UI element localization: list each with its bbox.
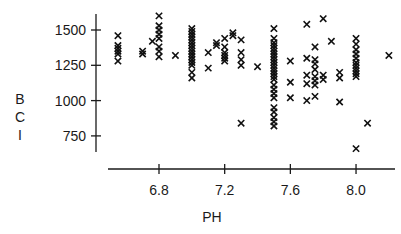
x-tick-label: 6.8: [149, 182, 169, 198]
data-point-x-marker: [115, 58, 120, 63]
y-axis-label-char: I: [18, 127, 22, 143]
data-point-x-marker: [312, 44, 317, 49]
data-point-x-marker: [312, 67, 317, 72]
data-point-x-marker: [337, 70, 342, 75]
data-point-x-marker: [189, 75, 194, 80]
data-point-x-marker: [271, 95, 276, 100]
data-point-x-marker: [156, 49, 161, 54]
data-point-x-marker: [189, 70, 194, 75]
data-point-x-marker: [271, 123, 276, 128]
data-point-x-marker: [239, 121, 244, 126]
data-point-x-marker: [304, 81, 309, 86]
data-point-x-marker: [288, 58, 293, 63]
data-point-x-marker: [222, 44, 227, 49]
data-point-x-marker: [271, 109, 276, 114]
data-point-x-marker: [271, 26, 276, 31]
y-tick-label: 1500: [55, 22, 86, 38]
data-point-x-marker: [156, 13, 161, 18]
scatter-chart: 750100012501500 6.87.27.68.0 BCI PH: [0, 0, 401, 234]
y-axis-label-char: C: [15, 109, 25, 125]
data-point-x-marker: [115, 33, 120, 38]
data-point-x-marker: [386, 53, 391, 58]
data-point-x-marker: [239, 57, 244, 62]
data-point-x-marker: [239, 50, 244, 55]
x-tick-label: 7.2: [215, 182, 235, 198]
data-point-x-marker: [156, 54, 161, 59]
data-point-x-marker: [321, 77, 326, 82]
data-point-x-marker: [239, 63, 244, 68]
data-point-x-marker: [337, 75, 342, 80]
data-point-x-marker: [304, 73, 309, 78]
data-point-x-marker: [312, 82, 317, 87]
y-axis-ticks: 750100012501500: [55, 22, 101, 144]
data-point-x-marker: [321, 16, 326, 21]
data-point-x-marker: [353, 42, 358, 47]
x-axis-label: PH: [202, 209, 221, 225]
data-point-x-marker: [150, 39, 155, 44]
x-tick-label: 8.0: [346, 182, 366, 198]
y-tick-label: 1250: [55, 57, 86, 73]
data-points: [115, 13, 391, 151]
y-tick-label: 750: [63, 128, 87, 144]
data-point-x-marker: [206, 50, 211, 55]
data-point-x-marker: [365, 121, 370, 126]
data-point-x-marker: [304, 98, 309, 103]
data-point-x-marker: [312, 61, 317, 66]
data-point-x-marker: [239, 37, 244, 42]
data-point-x-marker: [255, 64, 260, 69]
data-point-x-marker: [353, 36, 358, 41]
data-point-x-marker: [329, 39, 334, 44]
y-axis-label-char: B: [15, 91, 24, 107]
data-point-x-marker: [312, 94, 317, 99]
data-point-x-marker: [173, 53, 178, 58]
y-tick-label: 1000: [55, 93, 86, 109]
data-point-x-marker: [156, 36, 161, 41]
data-point-x-marker: [288, 80, 293, 85]
data-point-x-marker: [206, 66, 211, 71]
data-point-x-marker: [304, 56, 309, 61]
data-point-x-marker: [304, 22, 309, 27]
y-axis-label: BCI: [15, 91, 25, 143]
data-point-x-marker: [288, 95, 293, 100]
data-point-x-marker: [337, 99, 342, 104]
data-point-x-marker: [222, 36, 227, 41]
data-point-x-marker: [353, 146, 358, 151]
x-tick-label: 7.6: [281, 182, 301, 198]
